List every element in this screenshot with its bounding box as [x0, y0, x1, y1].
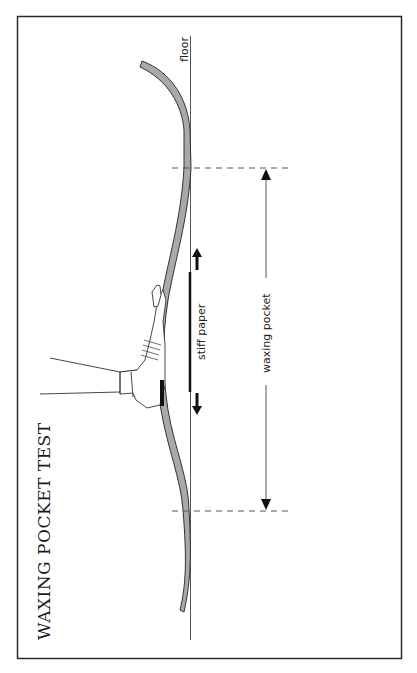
boot: [120, 290, 166, 408]
diagram-title: WAXING POCKET TEST: [34, 422, 54, 640]
frame-border: [18, 17, 402, 229]
arrowhead-up-icon: [261, 169, 271, 180]
arrowhead-down-icon: [261, 499, 271, 510]
paper-arrow-up-icon: [192, 248, 202, 270]
diagram-frame: [18, 17, 402, 229]
picture-frame: [18, 17, 402, 229]
diagram-canvas: floor waxing pocket stiff paper WAXING P…: [0, 0, 417, 673]
main-frame: [18, 17, 402, 659]
ski: [140, 61, 191, 612]
heel-plate: [160, 380, 164, 406]
waxing-pocket-label: waxing pocket: [260, 293, 273, 373]
floor-label: floor: [178, 37, 191, 62]
border-frame: [18, 17, 402, 229]
outer-frame: [18, 17, 402, 229]
stiff-paper-label: stiff paper: [195, 303, 208, 360]
paper-arrow-down-icon: [192, 393, 202, 415]
frame-border: [18, 16, 402, 229]
boot-and-leg-illustration: [40, 285, 166, 408]
frame-outline: [18, 17, 402, 229]
illustration-frame: [18, 17, 402, 229]
